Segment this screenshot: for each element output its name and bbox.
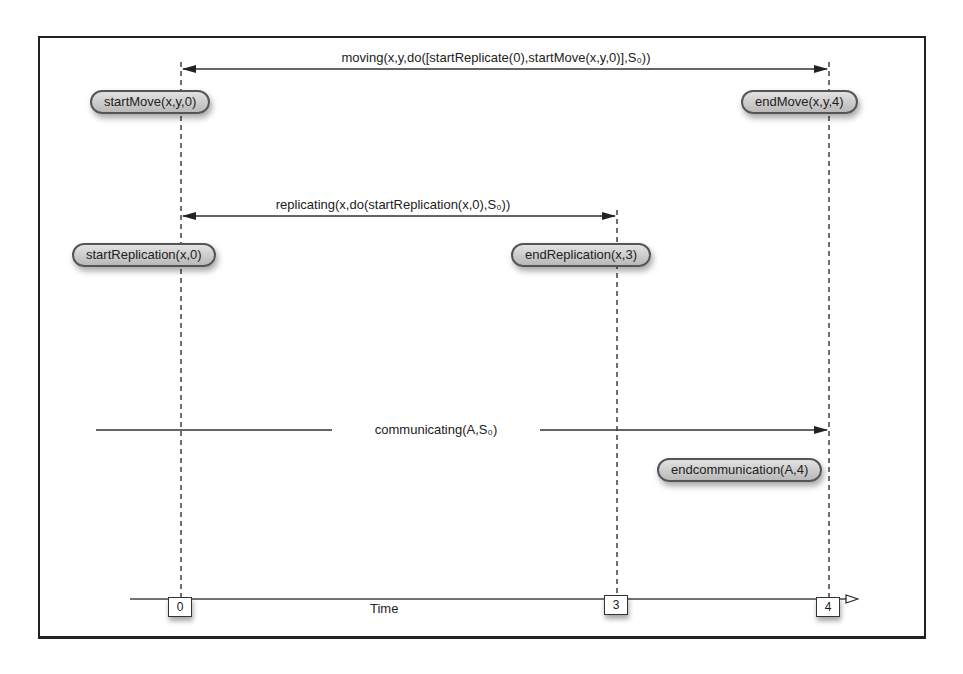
time-axis-label: Time	[370, 601, 398, 616]
time-tick-4: 4	[816, 597, 840, 617]
communicating-interval-label: communicating(A,S₀)	[375, 422, 497, 437]
time-tick-0: 0	[168, 597, 192, 617]
event-endMove: endMove(x,y,4)	[741, 90, 858, 114]
event-endReplication: endReplication(x,3)	[511, 243, 651, 267]
event-endcommunication: endcommunication(A,4)	[657, 458, 822, 482]
event-startReplication: startReplication(x,0)	[72, 243, 216, 267]
moving-interval-label: moving(x,y,do([startReplicate(0),startMo…	[341, 50, 650, 65]
replicating-interval-label: replicating(x,do(startReplication(x,0),S…	[276, 197, 510, 212]
time-tick-3: 3	[604, 595, 628, 615]
event-startMove: startMove(x,y,0)	[90, 90, 210, 114]
